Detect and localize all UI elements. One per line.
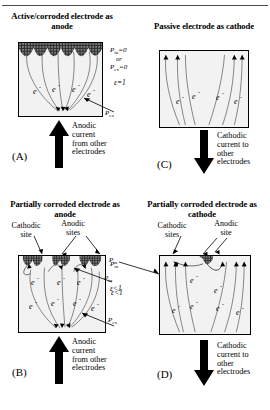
anodic-current-arrow-up [48, 120, 70, 168]
anodic-current-label: Anodic current from other electrodes [72, 338, 107, 373]
figure-electrode-polarization: Active/corroded electrode as anode [0, 0, 270, 410]
electron-label: e [172, 306, 176, 315]
electron-charge-sign: - [58, 82, 60, 88]
p-ex-zero-label: Pex=0 [110, 63, 127, 74]
panel-d-title: Partially corroded electrode as cathode [141, 200, 263, 219]
electron-charge-sign: - [222, 301, 224, 307]
panel-c: Passive electrode as cathode e - e [135, 10, 270, 200]
electron-charge-sign: - [242, 305, 244, 311]
electron-charge-sign: - [198, 89, 200, 95]
electron-label: e [216, 304, 220, 313]
electron-charge-sign: - [97, 301, 99, 307]
electron-label: e [29, 302, 33, 311]
cathodic-current-label: Cathodic current to other electrodes [217, 132, 250, 167]
electron-label: e [73, 299, 77, 308]
electron-label: e [190, 276, 194, 285]
panel-marker-d: (D) [157, 368, 172, 380]
electron-charge-sign: - [37, 275, 39, 281]
electron-charge-sign: - [182, 94, 184, 100]
electron-charge-sign: - [178, 303, 180, 309]
anodic-current-arrow-up [48, 336, 70, 384]
electron-charge-sign: - [196, 273, 198, 279]
panel-d-electrode-box: e - e - e - e - e - e - [159, 255, 251, 335]
electron-charge-sign: - [78, 82, 80, 88]
electron-label: e [192, 92, 196, 101]
electron-charge-sign: - [93, 87, 95, 93]
panel-c-electrode-box: e - e - e - e - [159, 50, 249, 128]
electron-charge-sign: - [57, 296, 59, 302]
electron-label: e [31, 278, 35, 287]
p-ex-pointer-label: Pex [105, 109, 114, 120]
electron-charge-sign: - [220, 283, 222, 289]
electron-label: e [72, 85, 76, 94]
panel-b-title: Partially corroded electrode as anode [6, 200, 124, 219]
electron-label: e [216, 93, 220, 102]
electron-charge-sign: - [39, 84, 41, 90]
electron-charge-sign: - [240, 94, 242, 100]
anodic-site-label: Anodic site [205, 220, 247, 237]
cathodic-current-arrow-down [193, 340, 215, 386]
electron-label: e [176, 97, 180, 106]
panel-a: Active/corroded electrode as anode [0, 10, 135, 200]
anodic-sites-label: Anodic sites [52, 220, 94, 237]
epsilon-label: ε<1 [111, 288, 123, 297]
electrode-body: e - e - e - e - e - e - [159, 255, 251, 335]
panel-marker-b: (B) [12, 366, 27, 378]
electrode-body: e - e - e - e - [159, 50, 249, 128]
electron-label: e [214, 286, 218, 295]
panel-a-title: Active/corroded electrode as anode [6, 12, 118, 31]
panel-marker-a: (A) [12, 150, 27, 162]
panel-marker-c: (C) [157, 158, 172, 170]
p-ex-label: Pex [108, 316, 117, 327]
epsilon-label: ε=1 [114, 78, 126, 87]
electron-charge-sign: - [63, 275, 65, 281]
electron-label: e [52, 85, 56, 94]
electron-label: e [234, 97, 238, 106]
panel-d: Partially corroded electrode as cathode … [135, 200, 270, 410]
electron-charge-sign: - [222, 90, 224, 96]
electron-label: e [57, 278, 61, 287]
cathodic-current-label: Cathodic current to other electrodes [217, 342, 250, 377]
top-rule [2, 5, 268, 6]
electron-charge-sign: - [79, 296, 81, 302]
electron-label: e [190, 302, 194, 311]
or-label: or [116, 55, 122, 62]
electron-label: e [51, 299, 55, 308]
p-in-pointer-line [117, 260, 161, 276]
anodic-current-label: Anodic current from other electrodes [72, 122, 107, 157]
cathodic-current-arrow-down [193, 130, 215, 174]
electron-label: e [236, 308, 240, 317]
panel-c-title: Passive electrode as cathode [149, 22, 259, 32]
electron-charge-sign: - [196, 299, 198, 305]
electron-label: e [33, 87, 37, 96]
p-in-label: Pin [109, 256, 117, 267]
panel-b: Partially corroded electrode as anode Ca… [0, 200, 135, 410]
electron-charge-sign: - [35, 299, 37, 305]
